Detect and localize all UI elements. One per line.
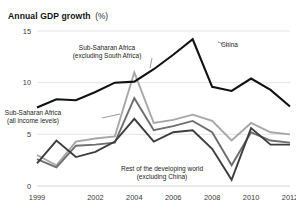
ssa-excl-south-africa-label: Sub-Saharan Africa [79, 44, 136, 51]
china-label: China [221, 41, 238, 48]
x-tick-label: 2006 [165, 193, 181, 202]
x-tick-label: 2002 [87, 193, 103, 202]
x-tick-label: 2008 [204, 193, 220, 202]
x-tick-label: 2010 [243, 193, 259, 202]
y-tick-label: 10 [23, 78, 31, 87]
rest-developing-world-label: (excluding China) [137, 173, 188, 181]
y-tick-label: 15 [23, 27, 31, 36]
gdp-growth-chart: Annual GDP growth (%) 051015 19992002200… [0, 0, 296, 211]
x-tick-label: 1999 [29, 193, 45, 202]
rest-developing-world-label: Rest of the developing world [121, 165, 203, 173]
y-tick-label: 5 [27, 130, 31, 139]
data-series-group [37, 39, 290, 180]
ssa-all-income-label: Sub-Saharan Africa [5, 109, 62, 116]
leader-line [102, 114, 120, 118]
x-tick-label: 2012 [282, 193, 296, 202]
chart-plot-area: 051015 1999200220042006200820102012 Chin… [0, 0, 296, 211]
y-tick-label: 0 [27, 182, 31, 191]
ssa-excl-south-africa-label: (excluding South Africa) [73, 52, 142, 60]
series-line [37, 72, 290, 165]
x-axis-ticks: 1999200220042006200820102012 [29, 193, 296, 202]
series-line [37, 39, 290, 107]
ssa-all-income-label: (all income levels) [7, 117, 59, 125]
x-tick-label: 2004 [126, 193, 142, 202]
leader-line [150, 58, 152, 68]
